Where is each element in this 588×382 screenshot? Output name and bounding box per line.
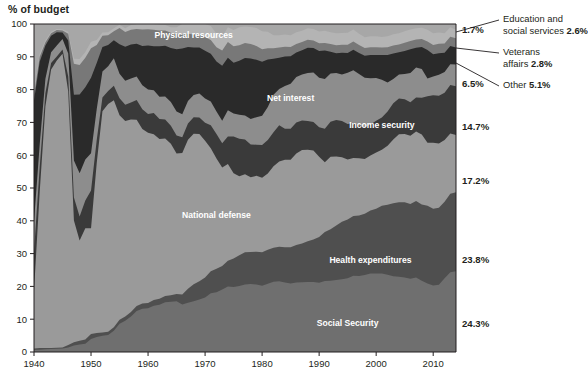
callout-1: Education andsocial services 2.6% — [503, 13, 588, 36]
percent-label-14-7: 14.7% — [462, 121, 489, 132]
y-tick-label: 40 — [16, 215, 27, 226]
callout-value: 2.6% — [567, 25, 588, 36]
x-tick-label: 1980 — [252, 358, 273, 369]
series-label-health_expenditures: Health expenditures — [329, 255, 411, 265]
percent-label-23-8: 23.8% — [462, 254, 489, 265]
y-tick-label: 20 — [16, 281, 27, 292]
series-label-social_security: Social Security — [317, 318, 379, 328]
series-label-net_interest: Net interest — [267, 93, 314, 103]
callout-line-2: affairs 2.8% — [503, 58, 552, 70]
callout-line-1: Veterans — [503, 46, 552, 58]
callout-3: Other 5.1% — [503, 79, 550, 91]
y-tick-label: 0 — [22, 346, 27, 357]
x-tick-label: 2010 — [423, 358, 444, 369]
percent-label-17-2: 17.2% — [462, 175, 489, 186]
percent-label-24-3: 24.3% — [462, 318, 489, 329]
y-tick-label: 100 — [11, 18, 27, 29]
series-label-income_security: Income security — [349, 120, 415, 130]
x-tick-label: 1990 — [309, 358, 330, 369]
x-tick-label: 2000 — [366, 358, 387, 369]
leader-line-2 — [456, 48, 499, 53]
y-tick-label: 80 — [16, 84, 27, 95]
callout-line-1: Other 5.1% — [503, 79, 550, 91]
callout-2: Veteransaffairs 2.8% — [503, 46, 552, 69]
callout-value: 5.1% — [529, 79, 550, 90]
y-tick-label: 10 — [16, 314, 27, 325]
callout-line-2: social services 2.6% — [503, 25, 588, 37]
callout-line-1: Education and — [503, 13, 588, 25]
percent-label-6-5: 6.5% — [462, 78, 484, 89]
series-label-physical_resources: Physical resources — [154, 30, 233, 40]
y-tick-label: 30 — [16, 248, 27, 259]
x-tick-label: 1940 — [23, 358, 44, 369]
percent-label-1-7: 1.7% — [462, 24, 484, 35]
series-label-national_defense: National defense — [182, 210, 251, 220]
x-tick-label: 1950 — [80, 358, 101, 369]
y-tick-label: 90 — [16, 51, 27, 62]
callout-value: 2.8% — [531, 58, 552, 69]
x-tick-label: 1970 — [195, 358, 216, 369]
x-tick-label: 1960 — [137, 358, 158, 369]
y-tick-label: 70 — [16, 117, 27, 128]
y-tick-label: 60 — [16, 150, 27, 161]
y-tick-label: 50 — [16, 182, 27, 193]
